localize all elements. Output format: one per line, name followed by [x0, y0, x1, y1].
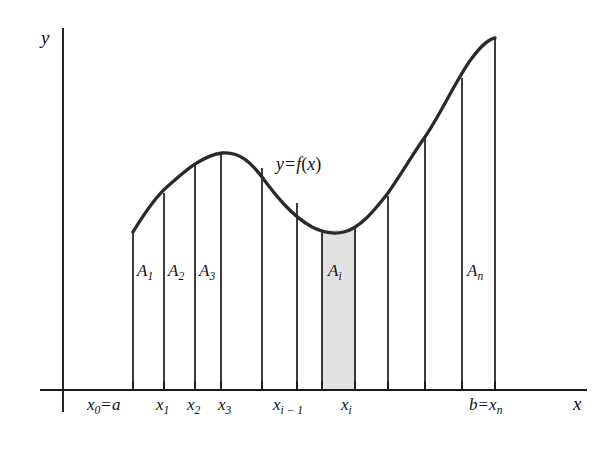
- region-subscript: 2: [178, 270, 184, 283]
- region-base: A: [467, 261, 477, 280]
- figure-canvas: y x y=f(x) A1 A2 A3 Ai An x0=a x1 x2 x3 …: [0, 0, 607, 449]
- region-base: A: [168, 261, 178, 280]
- tick-equals: =: [478, 395, 490, 414]
- tick-base: b: [469, 395, 478, 414]
- tick-tail: a: [112, 395, 121, 414]
- y-axis-label: y: [41, 28, 49, 47]
- curve-label-paren-close: ): [315, 154, 321, 174]
- curve-label-equals: =: [284, 154, 296, 174]
- tick-label-x0-equals-a: x0=a: [87, 396, 120, 416]
- region-subscript: n: [477, 270, 483, 283]
- tick-subscript: i: [349, 404, 352, 417]
- x-axis-label: x: [573, 394, 581, 413]
- x-axis-tick-marks: [133, 381, 495, 390]
- region-subscript: 3: [209, 270, 215, 283]
- region-base: A: [199, 261, 209, 280]
- region-label-a3: A3: [199, 262, 215, 282]
- tick-base: x: [87, 395, 95, 414]
- tick-base: x: [218, 395, 226, 414]
- tick-label-x2: x2: [187, 396, 200, 416]
- region-label-an: An: [467, 262, 483, 282]
- tick-label-b-equals-xn: b=xn: [469, 396, 502, 416]
- shaded-strip-ai: [322, 228, 355, 390]
- tick-subscript: 2: [195, 404, 201, 417]
- region-label-ai: Ai: [328, 262, 342, 282]
- tick-base: x: [273, 395, 281, 414]
- tick-label-xi-minus-1: xi − 1: [273, 396, 303, 416]
- tick-label-x3: x3: [218, 396, 231, 416]
- region-label-a1: A1: [137, 262, 153, 282]
- curve-equation-label: y=f(x): [276, 155, 321, 173]
- tick-subscript: 3: [226, 404, 232, 417]
- tick-subscript: 1: [164, 404, 170, 417]
- tick-base: x: [187, 395, 195, 414]
- tick-base: x: [341, 395, 349, 414]
- curve-label-y: y: [276, 154, 284, 174]
- region-base: A: [137, 261, 147, 280]
- tick-tail: x: [489, 395, 497, 414]
- tick-base: x: [156, 395, 164, 414]
- tick-label-xi: xi: [341, 396, 352, 416]
- riemann-sum-diagram: [0, 0, 607, 449]
- region-subscript: i: [338, 270, 341, 283]
- tick-equals: =: [100, 395, 112, 414]
- function-curve: [133, 38, 495, 233]
- region-label-a2: A2: [168, 262, 184, 282]
- region-base: A: [328, 261, 338, 280]
- tick-label-x1: x1: [156, 396, 169, 416]
- partition-lines: [133, 38, 495, 390]
- region-subscript: 1: [147, 270, 153, 283]
- curve-label-var: x: [307, 154, 315, 174]
- tick-subscript: n: [497, 404, 503, 417]
- tick-subscript: i − 1: [281, 404, 304, 417]
